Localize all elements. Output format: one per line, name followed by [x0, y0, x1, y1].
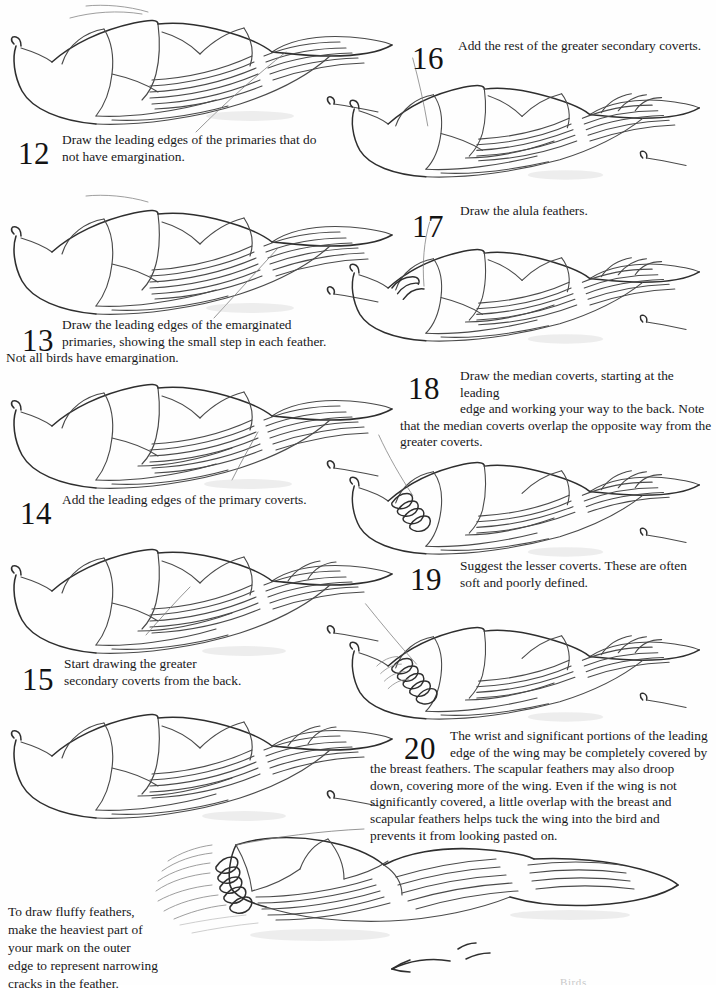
- wing-illustration-12: [0, 0, 400, 141]
- page-footer: Birds: [560, 976, 710, 985]
- wing-illustration-14: [0, 360, 400, 495]
- step-19-number: 19: [410, 564, 442, 595]
- step-15: 15 Start drawing the greater secondary c…: [0, 656, 400, 689]
- step-12: 12 Draw the leading edges of the primari…: [0, 132, 400, 165]
- step-16-text: Add the rest of the greater secondary co…: [458, 38, 714, 55]
- step-19: 19 Suggest the lesser coverts. These are…: [406, 558, 716, 591]
- step-13-number: 13: [22, 325, 54, 356]
- step-18-overflow-text: that the median coverts overlap the oppo…: [400, 418, 716, 451]
- step-13-overflow-text: Not all birds have emargination.: [6, 350, 346, 367]
- step-15-text: Start drawing the greater secondary cove…: [64, 656, 344, 689]
- step-20-number: 20: [404, 733, 436, 764]
- wing-illustration-13: [0, 186, 400, 321]
- step-16: 16 Add the rest of the greater secondary…: [406, 38, 716, 55]
- step-17-number: 17: [412, 211, 444, 242]
- fluffy-feathers-caption: To draw fluffy feathers, make the heavie…: [8, 903, 208, 992]
- step-18: 18 Draw the median coverts, starting at …: [400, 368, 716, 451]
- step-14: 14 Add the leading edges of the primary …: [0, 492, 400, 509]
- step-12-number: 12: [18, 138, 50, 169]
- step-19-text: Suggest the lesser coverts. These are of…: [460, 558, 716, 591]
- step-17-text: Draw the alula feathers.: [460, 203, 716, 220]
- step-18-number: 18: [408, 373, 440, 404]
- step-14-text: Add the leading edges of the primary cov…: [62, 492, 352, 509]
- wing-illustration-15-lower: [0, 690, 400, 830]
- step-13-text: Draw the leading edges of the emarginate…: [62, 317, 352, 350]
- step-12-text: Draw the leading edges of the primaries …: [62, 132, 342, 165]
- step-18-text: Draw the median coverts, starting at the…: [460, 368, 716, 418]
- step-15-number: 15: [22, 664, 54, 695]
- step-20-text: The wrist and significant portions of th…: [450, 728, 716, 761]
- step-16-number: 16: [412, 43, 444, 74]
- step-13: 13 Draw the leading edges of the emargin…: [0, 317, 400, 367]
- step-17: 17 Draw the alula feathers.: [406, 203, 716, 220]
- wing-illustration-16: [330, 58, 716, 190]
- step-14-number: 14: [20, 498, 52, 529]
- wing-illustration-15: [0, 525, 400, 660]
- step-20-overflow-text: the breast feathers. The scapular feathe…: [370, 761, 716, 844]
- step-20: 20 The wrist and significant portions of…: [370, 728, 716, 844]
